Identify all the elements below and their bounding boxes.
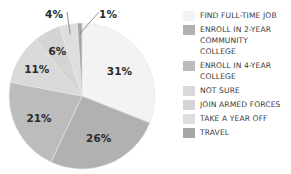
legend-swatch <box>183 25 195 35</box>
legend-label: ENROLL IN 4-YEAR COLLEGE <box>200 60 286 82</box>
legend-swatch <box>183 86 195 96</box>
legend-label: NOT SURE <box>200 85 240 96</box>
legend-item-travel: TRAVEL <box>183 127 291 138</box>
legend-label: JOIN ARMED FORCES <box>200 99 281 110</box>
slice-label: 11% <box>24 63 50 75</box>
legend-item-find-job: FIND FULL-TIME JOB <box>183 10 291 21</box>
legend: FIND FULL-TIME JOB ENROLL IN 2-YEAR COMM… <box>183 10 291 141</box>
legend-swatch <box>183 11 195 21</box>
slice-label: 4% <box>45 8 63 20</box>
slice-label: 26% <box>86 132 112 144</box>
legend-swatch <box>183 114 195 124</box>
legend-swatch <box>183 128 195 138</box>
slice-label: 31% <box>107 65 133 77</box>
slice-label: 6% <box>48 45 66 57</box>
legend-label: FIND FULL-TIME JOB <box>200 10 277 21</box>
legend-swatch <box>183 100 195 110</box>
legend-item-year-off: TAKE A YEAR OFF <box>183 113 291 124</box>
slice-label: 21% <box>27 112 53 124</box>
slice-label: 1% <box>99 8 117 20</box>
legend-label: TAKE A YEAR OFF <box>200 113 268 124</box>
legend-label: ENROLL IN 2-YEAR COMMUNITY COLLEGE <box>200 24 286 57</box>
legend-item-2-year-college: ENROLL IN 2-YEAR COMMUNITY COLLEGE <box>183 24 291 57</box>
pie-chart: 31%26%21%11%6%4%1% <box>0 0 180 174</box>
legend-label: TRAVEL <box>200 127 229 138</box>
legend-item-4-year-college: ENROLL IN 4-YEAR COLLEGE <box>183 60 291 82</box>
pie-slices <box>9 23 155 169</box>
legend-swatch <box>183 61 195 71</box>
legend-item-not-sure: NOT SURE <box>183 85 291 96</box>
legend-item-armed-forces: JOIN ARMED FORCES <box>183 99 291 110</box>
